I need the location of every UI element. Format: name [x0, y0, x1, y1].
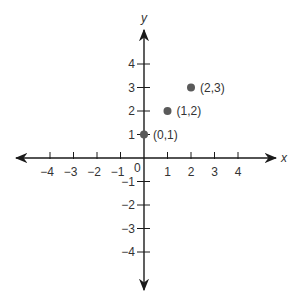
y-tick-label: −3: [121, 222, 135, 236]
y-tick-label: −1: [121, 175, 135, 189]
data-point: [187, 84, 195, 92]
data-point: [164, 107, 172, 115]
origin-label: 0: [134, 161, 141, 175]
x-tick-label: 1: [164, 165, 171, 179]
data-point-label: (1,2): [177, 104, 202, 118]
y-tick-label: −4: [121, 245, 135, 259]
y-tick-label: 2: [128, 104, 135, 118]
coordinate-plane: −4−3−2−11234 4321−1−2−3−4 x y 0 (0,1)(1,…: [0, 0, 296, 302]
data-point-label: (0,1): [153, 128, 178, 142]
x-axis-label: x: [280, 151, 288, 165]
y-tick-label: 3: [128, 81, 135, 95]
x-tick-label: −2: [87, 165, 101, 179]
data-point-label: (2,3): [200, 81, 225, 95]
y-tick-label: 1: [128, 128, 135, 142]
data-points: (0,1)(1,2)(2,3): [140, 81, 225, 142]
y-axis-label: y: [140, 11, 148, 25]
x-tick-label: 2: [188, 165, 195, 179]
x-axis-ticks: −4−3−2−11234: [40, 152, 242, 179]
y-tick-label: −2: [121, 198, 135, 212]
x-tick-label: 3: [211, 165, 218, 179]
x-tick-label: −4: [40, 165, 54, 179]
y-tick-label: 4: [128, 57, 135, 71]
data-point: [140, 131, 148, 139]
x-tick-label: 4: [235, 165, 242, 179]
x-tick-label: −3: [64, 165, 78, 179]
